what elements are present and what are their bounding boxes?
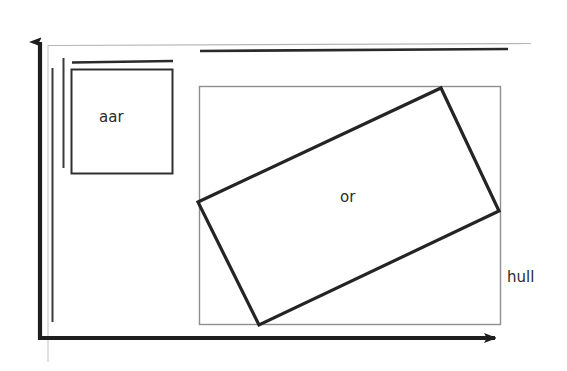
hull-label: hull [507,270,534,285]
faint-guides [48,44,531,363]
figure-canvas: aar or hull [0,0,567,371]
or-rotated-box [198,88,499,325]
faint-horizontal-guide [48,44,531,46]
or-label: or [340,190,355,205]
aar-top-rule [72,61,173,63]
aar-label: aar [99,110,124,125]
diagram-svg [0,0,567,371]
top-rule-dark [200,49,508,51]
